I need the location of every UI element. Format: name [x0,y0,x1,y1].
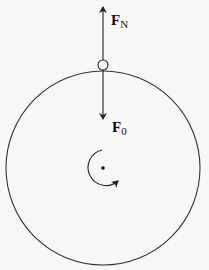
diagram-canvas: FN F0 [0,0,209,270]
force-diagram: FN F0 [0,0,209,270]
center-dot [101,166,105,170]
ball-on-rim [98,60,108,70]
label-force-normal: FN [111,12,128,30]
label-force-zero: F0 [112,119,127,137]
